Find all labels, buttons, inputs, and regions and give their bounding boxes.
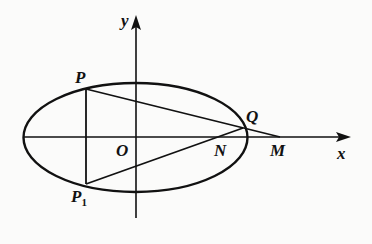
x-axis-label: x — [337, 145, 346, 162]
point-N-label: N — [214, 142, 226, 159]
point-M-label: M — [270, 142, 285, 159]
origin-label: O — [116, 142, 128, 159]
point-P1-label: P1 — [71, 188, 87, 208]
point-P1-subscript: 1 — [81, 196, 87, 208]
point-P-label: P — [75, 69, 85, 86]
point-P1-letter: P — [71, 187, 81, 206]
point-Q-label: Q — [246, 108, 258, 125]
y-axis-label: y — [121, 12, 129, 29]
diagram-graphic — [0, 0, 372, 244]
ellipse-diagram: y x O P P1 Q N M — [0, 0, 372, 244]
